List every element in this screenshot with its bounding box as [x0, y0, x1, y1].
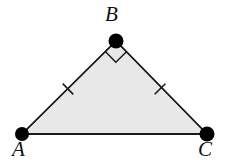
- geometry-figure: A B C: [0, 0, 225, 165]
- vertex-label-c: C: [198, 139, 212, 160]
- vertex-label-a: A: [12, 139, 25, 160]
- vertex-label-b: B: [105, 4, 118, 25]
- vertex-dot-b: [109, 34, 124, 49]
